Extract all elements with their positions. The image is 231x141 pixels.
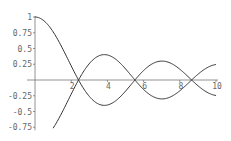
- line-chart: 10.750.50.25-0.25-0.5-0.75246810: [0, 0, 231, 141]
- x-tick-label: 4: [106, 82, 111, 91]
- y-tick-label: 0.5: [18, 45, 33, 54]
- series-neg-j0-curve: [53, 55, 216, 129]
- x-tick-label: 8: [178, 82, 183, 91]
- y-tick-label: -0.5: [13, 108, 32, 117]
- y-tick-label: 0.75: [13, 29, 32, 38]
- x-tick-label: 6: [142, 82, 147, 91]
- x-tick-label: 2: [70, 82, 75, 91]
- curves: [35, 17, 216, 128]
- y-tick-label: -0.25: [8, 92, 32, 101]
- y-tick-label: 1: [27, 13, 32, 22]
- series-j0-curve: [35, 17, 216, 105]
- tick-labels: 10.750.50.25-0.25-0.5-0.75246810: [8, 13, 222, 132]
- y-tick-label: -0.75: [8, 123, 32, 132]
- x-tick-label: 10: [212, 82, 222, 91]
- axes: [27, 16, 218, 130]
- y-tick-label: 0.25: [13, 60, 32, 69]
